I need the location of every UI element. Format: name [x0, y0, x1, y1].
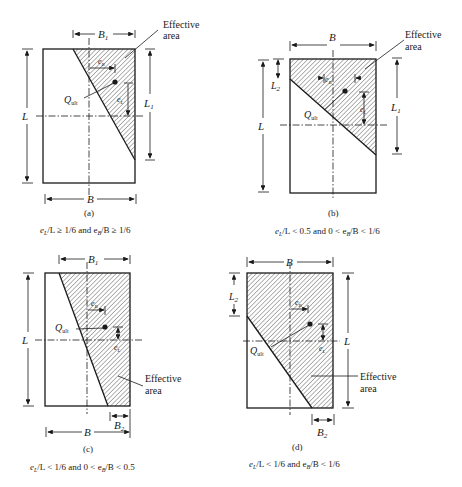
condition-caption-c: eL/L < 1/6 and 0 < eB/B < 0.5 [30, 462, 135, 473]
effective-area-label-c: Effective [145, 373, 182, 384]
svg-text:L2: L2 [270, 80, 281, 93]
svg-text:L2: L2 [228, 291, 239, 304]
svg-text:area: area [145, 385, 162, 396]
svg-text:Qult: Qult [55, 322, 69, 334]
svg-text:B: B [84, 426, 91, 438]
svg-text:L1: L1 [143, 97, 154, 111]
panel-tag-d: (d) [292, 442, 303, 452]
effective-area-label-d: Effective [360, 371, 397, 382]
svg-text:B1: B1 [88, 253, 98, 267]
load-point-a [112, 79, 117, 84]
panel-tag-a: (a) [84, 208, 94, 218]
svg-text:B2: B2 [114, 419, 125, 433]
svg-text:area: area [360, 383, 377, 394]
svg-text:L1: L1 [390, 101, 401, 115]
condition-caption-b: eL/L < 0.5 and 0 < eB/B < 1/6 [275, 226, 380, 237]
svg-text:B: B [286, 256, 293, 268]
svg-text:B1: B1 [98, 28, 108, 42]
svg-text:B2: B2 [317, 426, 328, 440]
svg-text:L: L [257, 120, 264, 132]
svg-text:L: L [21, 334, 28, 346]
svg-text:area: area [163, 30, 180, 41]
svg-text:Qult: Qult [304, 109, 318, 121]
load-point-c [102, 324, 107, 329]
panel-tag-c: (c) [83, 444, 93, 454]
svg-text:B: B [87, 193, 94, 205]
panel-c [23, 255, 143, 438]
svg-text:B: B [329, 31, 336, 43]
effective-area-label-b: Effective [405, 29, 442, 40]
svg-text:Qult: Qult [250, 345, 264, 357]
load-point-b [342, 88, 347, 93]
svg-text:Qult: Qult [64, 94, 78, 106]
panel-a [22, 30, 158, 204]
effective-area-c [59, 273, 130, 406]
effective-area-label-a: Effective [163, 19, 200, 30]
panel-b [258, 40, 404, 200]
panel-d [229, 257, 358, 425]
load-point-d [307, 321, 312, 326]
svg-text:area: area [405, 41, 422, 52]
svg-text:L: L [21, 110, 28, 122]
foundation-eccentricity-diagram: B1 Effective area L L1 B eB eL Qult (a) … [0, 0, 462, 487]
condition-caption-a: eL/L ≥ 1/6 and eB/B ≥ 1/6 [40, 225, 131, 236]
condition-caption-d: eL/L < 1/6 and eB/B < 1/6 [249, 459, 340, 470]
svg-text:L: L [343, 335, 350, 347]
panel-tag-b: (b) [328, 208, 339, 218]
